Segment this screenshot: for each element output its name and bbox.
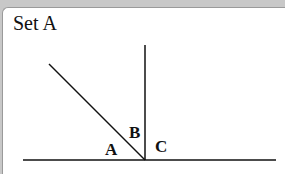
diagonal-ray <box>49 64 145 160</box>
angle-label-a: A <box>105 140 118 159</box>
angle-label-b: B <box>129 123 140 142</box>
angle-label-c: C <box>155 137 167 156</box>
angle-diagram: A B C <box>0 0 285 174</box>
